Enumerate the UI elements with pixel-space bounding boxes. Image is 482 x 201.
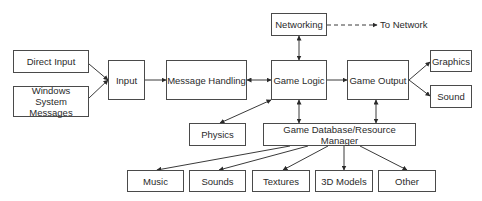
node-music: Music (127, 170, 184, 192)
node-models-3d: 3D Models (315, 170, 373, 192)
edge-game-db-to-music (157, 146, 290, 170)
edge-game-db-to-sounds (219, 146, 308, 170)
edge-game-output-to-sound (409, 80, 430, 96)
edge-game-db-to-textures (283, 146, 328, 170)
node-game-db: Game Database/Resource Manager (263, 123, 416, 146)
node-graphics: Graphics (430, 50, 472, 72)
edge-game-logic-to-physics (220, 100, 271, 123)
node-message-handling: Message Handling (166, 60, 247, 100)
to-network-label: To Network (380, 19, 428, 30)
edge-direct-input-to-input (89, 64, 108, 80)
node-game-logic: Game Logic (271, 60, 327, 100)
node-sounds: Sounds (189, 170, 246, 192)
node-networking: Networking (271, 13, 327, 36)
edge-game-db-to-other (360, 146, 407, 170)
node-windows-msgs: Windows System Messages (13, 86, 89, 117)
node-input: Input (108, 60, 145, 100)
node-other: Other (378, 170, 436, 192)
node-direct-input: Direct Input (13, 50, 89, 73)
node-physics: Physics (189, 123, 246, 146)
edge-windows-msgs-to-input (89, 80, 108, 98)
node-textures: Textures (252, 170, 310, 192)
edge-game-output-to-graphics (409, 62, 430, 80)
node-sound: Sound (430, 85, 472, 108)
node-game-output: Game Output (347, 60, 409, 100)
